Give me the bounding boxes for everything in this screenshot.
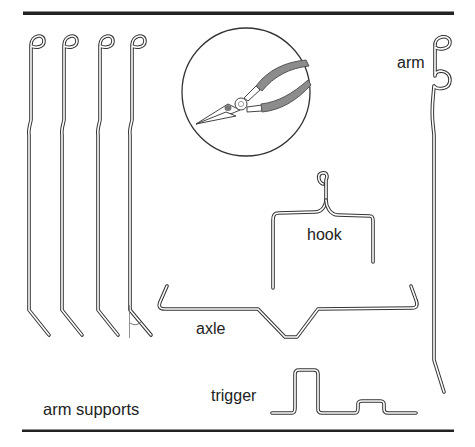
top-rule [23, 12, 454, 16]
arm-support-wire [130, 36, 151, 335]
arm-supports [29, 36, 151, 338]
trigger-label: trigger [211, 388, 256, 404]
arm-support-wire [62, 36, 82, 335]
arm-support-wire [29, 36, 49, 335]
hook-label: hook [307, 227, 342, 243]
pliers-frame-circle [182, 28, 310, 156]
arm-label: arm [397, 55, 425, 71]
parts-diagram: .w-out { fill: none; stroke: #333333; st… [0, 0, 475, 447]
arm-support-wire [98, 36, 118, 335]
arm [432, 37, 450, 392]
arm-supports-label: arm supports [43, 401, 139, 418]
axle-label: axle [196, 321, 225, 337]
pliers-illustration [182, 28, 311, 156]
bottom-rule [22, 430, 454, 433]
trigger [272, 370, 416, 413]
